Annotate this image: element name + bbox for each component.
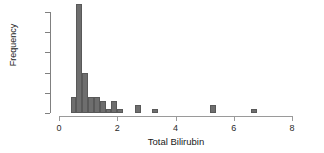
x-tick-label: 2: [115, 123, 120, 133]
histogram-bar: [152, 109, 158, 113]
histogram-bar: [117, 109, 123, 113]
x-tick-label: 6: [231, 123, 236, 133]
x-tick-label: 8: [289, 123, 294, 133]
x-tick-mark: [176, 116, 177, 121]
x-axis-title: Total Bilirubin: [59, 136, 293, 147]
histogram-figure: 0510152025 Frequency 02468 Total Bilirub…: [0, 0, 324, 153]
histogram-bar: [251, 109, 257, 113]
x-tick-label: 0: [56, 123, 61, 133]
histogram-bars: [0, 0, 324, 153]
x-tick-mark: [117, 116, 118, 121]
x-tick-label: 4: [173, 123, 178, 133]
plot-area: 0510152025 Frequency 02468 Total Bilirub…: [0, 0, 324, 153]
x-tick-mark: [59, 116, 60, 121]
x-tick-mark: [292, 116, 293, 121]
histogram-bar: [135, 105, 141, 113]
x-tick-mark: [234, 116, 235, 121]
histogram-bar: [210, 105, 216, 113]
